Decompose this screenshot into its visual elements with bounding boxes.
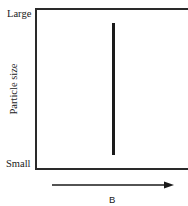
y-axis-top-label: Large (7, 9, 31, 20)
plot-top-border (36, 8, 188, 10)
x-axis-line (35, 168, 188, 170)
y-axis-line (35, 8, 37, 170)
y-axis-bottom-label: Small (6, 159, 31, 170)
x-axis-title: B (109, 195, 115, 205)
y-axis-title: Particle size (9, 63, 20, 114)
x-axis-arrow-icon (52, 180, 176, 190)
particle-size-range-line (112, 23, 115, 155)
